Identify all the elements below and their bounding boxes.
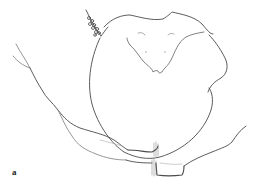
inner-shield <box>130 32 204 73</box>
left-foot-base <box>126 160 152 163</box>
filament-to-body <box>101 27 108 36</box>
lower-left-filament <box>58 110 126 160</box>
right-foot <box>156 163 184 176</box>
left-foot <box>128 146 158 152</box>
left-filament-branch <box>13 56 30 68</box>
specimen-illustration <box>0 0 259 188</box>
mark-right <box>168 33 174 35</box>
inner-shield-left <box>127 38 130 45</box>
mark-left <box>138 33 145 35</box>
panel-label: a <box>12 168 17 177</box>
body-outline <box>90 38 213 158</box>
dot-left <box>145 51 147 53</box>
right-filament <box>184 126 246 166</box>
bead-cluster <box>88 17 101 37</box>
right-foot-top <box>160 163 182 164</box>
body-top-edge <box>104 12 213 34</box>
line-drawing <box>0 0 259 188</box>
left-filament-main <box>30 68 128 150</box>
beaded-filament-stem <box>86 10 101 36</box>
dot-right <box>164 51 166 53</box>
body-right-side <box>208 35 227 92</box>
